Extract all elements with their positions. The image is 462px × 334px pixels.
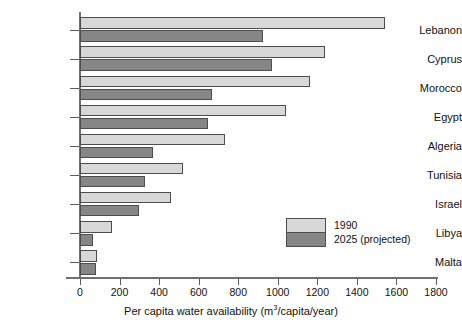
- x-axis-title-after: /capita/year): [277, 305, 338, 317]
- y-tick-malta: [70, 262, 79, 263]
- bar-malta-1990: [80, 250, 97, 262]
- bar-libya-2025: [80, 234, 93, 246]
- x-tick-label-1800: 1800: [416, 287, 456, 298]
- x-tick-0: [80, 279, 81, 285]
- bar-israel-2025: [80, 205, 139, 217]
- legend-swatches: [286, 218, 326, 248]
- bar-chart: LebanonCyprusMoroccoEgyptAlgeriaTunisiaI…: [0, 0, 462, 334]
- legend-swatch-1990: [286, 218, 326, 233]
- x-tick-label-0: 0: [60, 287, 100, 298]
- bar-malta-2025: [80, 263, 96, 275]
- x-axis-line: [66, 277, 438, 279]
- x-tick-1800: [436, 279, 437, 285]
- bar-egypt-1990: [80, 105, 286, 117]
- y-axis-label-lebanon: Lebanon: [394, 25, 462, 36]
- x-tick-label-1000: 1000: [258, 287, 298, 298]
- bar-algeria-1990: [80, 134, 225, 146]
- y-tick-algeria: [70, 146, 79, 147]
- y-axis-label-egypt: Egypt: [394, 112, 462, 123]
- bar-tunisia-2025: [80, 176, 145, 188]
- x-tick-1200: [317, 279, 318, 285]
- legend-swatch-2025: [286, 232, 326, 247]
- x-tick-label-600: 600: [179, 287, 219, 298]
- x-tick-label-1400: 1400: [337, 287, 377, 298]
- x-tick-400: [159, 279, 160, 285]
- x-axis-title: Per capita water availability (m3/capita…: [0, 305, 462, 317]
- legend-label-1990: 1990: [334, 220, 357, 231]
- x-tick-1000: [278, 279, 279, 285]
- y-tick-egypt: [70, 117, 79, 118]
- x-tick-800: [238, 279, 239, 285]
- bar-cyprus-1990: [80, 46, 325, 58]
- x-tick-200: [120, 279, 121, 285]
- bar-morocco-2025: [80, 89, 212, 101]
- x-tick-label-400: 400: [139, 287, 179, 298]
- y-tick-lebanon: [70, 30, 79, 31]
- bar-cyprus-2025: [80, 59, 272, 71]
- bar-morocco-1990: [80, 76, 310, 88]
- bar-egypt-2025: [80, 118, 208, 130]
- x-tick-600: [199, 279, 200, 285]
- y-tick-libya: [70, 233, 79, 234]
- x-tick-label-800: 800: [218, 287, 258, 298]
- bar-algeria-2025: [80, 147, 153, 159]
- y-axis-label-israel: Israel: [394, 199, 462, 210]
- y-axis-label-cyprus: Cyprus: [394, 54, 462, 65]
- y-tick-tunisia: [70, 175, 79, 176]
- bar-libya-1990: [80, 221, 112, 233]
- x-tick-1600: [396, 279, 397, 285]
- y-axis-label-algeria: Algeria: [394, 141, 462, 152]
- y-tick-cyprus: [70, 59, 79, 60]
- x-axis-title-before: Per capita water availability (m: [124, 305, 273, 317]
- bar-lebanon-1990: [80, 17, 385, 29]
- legend-label-2025: 2025 (projected): [334, 234, 410, 245]
- x-tick-1400: [357, 279, 358, 285]
- x-tick-label-200: 200: [100, 287, 140, 298]
- bar-tunisia-1990: [80, 163, 183, 175]
- bar-lebanon-2025: [80, 30, 263, 42]
- y-axis-label-tunisia: Tunisia: [394, 170, 462, 181]
- bar-israel-1990: [80, 192, 171, 204]
- y-tick-israel: [70, 204, 79, 205]
- x-tick-label-1600: 1600: [376, 287, 416, 298]
- x-tick-label-1200: 1200: [297, 287, 337, 298]
- y-axis-label-malta: Malta: [394, 257, 462, 268]
- y-axis-label-morocco: Morocco: [394, 83, 462, 94]
- y-tick-morocco: [70, 88, 79, 89]
